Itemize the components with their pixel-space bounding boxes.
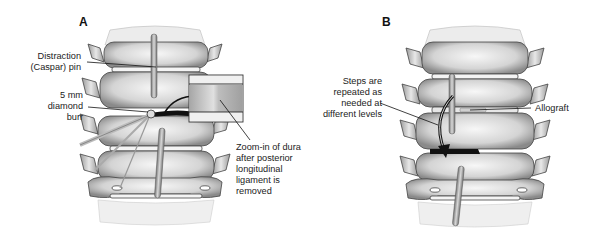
label-diamond-burr: 5 mm diamond burr xyxy=(23,90,83,123)
label-steps-repeated: Steps are repeated as needed at differen… xyxy=(302,76,382,120)
label-dura-zoom: Zoom-in of dura after posterior longitud… xyxy=(236,142,336,197)
panel-a-spine xyxy=(80,26,230,225)
panel-label-a: A xyxy=(79,15,88,29)
panel-label-b: B xyxy=(382,15,391,29)
label-allograft: Allograft xyxy=(535,103,569,114)
dura-inset xyxy=(189,75,243,122)
panel-b-spine xyxy=(400,26,550,227)
spine-illustration xyxy=(0,0,595,237)
label-distraction-pin: Distraction (Caspar) pin xyxy=(1,51,81,73)
